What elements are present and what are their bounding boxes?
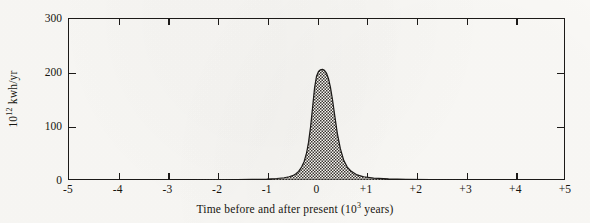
x-axis-tick-label: -4 [113, 183, 123, 195]
x-axis-tick-label: +1 [360, 183, 373, 195]
data-area-layer [68, 18, 565, 180]
x-axis-tick-label: -3 [162, 183, 172, 195]
y-axis-title: 1012 kwh/yr [5, 70, 19, 127]
y-axis-tick-label: 100 [45, 120, 62, 132]
x-axis-title-pre: Time before and after present (10 [197, 203, 357, 215]
x-axis-tick-label: +5 [559, 183, 572, 195]
y-axis-tick-label: 0 [56, 174, 62, 186]
y-axis-title-exponent: 12 [5, 107, 14, 115]
fossil-fuel-epoch-chart: Time before and after present (103 years… [0, 0, 590, 223]
fossil-fuel-spike-curve [68, 18, 565, 180]
x-axis-tick-label: +3 [459, 183, 472, 195]
x-axis-tick-label: 0 [314, 183, 320, 195]
x-axis-title-post: years) [361, 203, 393, 215]
y-axis-title-post: kwh/yr [7, 70, 19, 107]
x-axis-title: Time before and after present (103 years… [0, 201, 590, 215]
y-axis-tick-label: 200 [45, 66, 62, 78]
x-axis-tick-label: +4 [509, 183, 522, 195]
x-axis-tick-label: -1 [262, 183, 272, 195]
x-axis-tick-label: -5 [63, 183, 73, 195]
spike-path [68, 69, 565, 180]
x-axis-tick-label: +2 [410, 183, 423, 195]
y-axis-title-pre: 10 [7, 116, 19, 128]
x-axis-tick-label: -2 [212, 183, 222, 195]
y-axis-tick-label: 300 [45, 12, 62, 24]
